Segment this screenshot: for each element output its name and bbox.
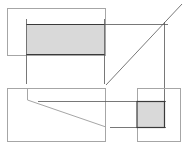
miter-line [106,4,182,85]
front-view-box [8,89,106,142]
side-view-shaded-rect [137,102,165,128]
diagram-canvas [0,0,190,147]
top-view-shaded-rect [27,25,105,55]
projection-diagram [0,0,190,147]
front-view-sloped-edge [28,88,107,127]
